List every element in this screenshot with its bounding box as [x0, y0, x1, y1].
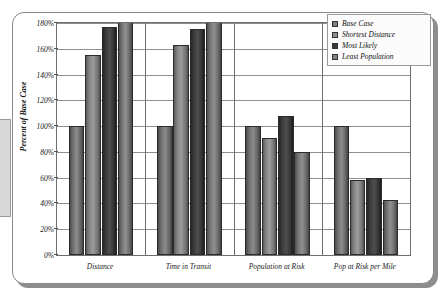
group-separator	[234, 23, 235, 255]
legend-swatch-icon	[332, 21, 338, 27]
y-axis-tick-label: 80%	[14, 147, 54, 156]
legend-item[interactable]: Most Likely	[332, 40, 426, 51]
x-axis-category-label: Distance	[56, 262, 144, 271]
y-axis-tick-label: 160%	[14, 44, 54, 53]
legend-item[interactable]: Shortest Distance	[332, 29, 426, 40]
y-axis-tick-label: 0%	[14, 251, 54, 260]
bar	[118, 23, 134, 255]
y-axis-tick-mark	[54, 125, 58, 126]
bar	[190, 29, 206, 255]
legend-item[interactable]: Base Case	[332, 18, 426, 29]
legend-swatch-icon	[332, 32, 338, 38]
bar	[102, 27, 118, 255]
bar	[157, 126, 173, 255]
y-axis-tick-label: 40%	[14, 199, 54, 208]
bar	[294, 152, 310, 255]
legend-label: Most Likely	[342, 41, 377, 50]
chart-legend: Base CaseShortest DistanceMost LikelyLea…	[327, 14, 431, 66]
bar	[85, 55, 101, 255]
x-axis-category-label: Population at Risk	[233, 262, 321, 271]
bar	[206, 23, 222, 255]
chart-window: Percent of Base Case 180%160%140%120%100…	[0, 0, 441, 291]
legend-swatch-icon	[332, 54, 338, 60]
group-separator	[322, 23, 323, 255]
y-axis-tick-label: 180%	[14, 19, 54, 28]
y-axis-tick-mark	[54, 202, 58, 203]
y-axis-tick-mark	[54, 22, 58, 23]
legend-label: Base Case	[342, 19, 373, 28]
y-axis-tick-labels: 180%160%140%120%100%80%60%40%20%0%	[8, 22, 54, 256]
bar	[173, 45, 189, 255]
y-axis-tick-mark	[54, 228, 58, 229]
x-axis-category-label: Time in Transit	[144, 262, 232, 271]
bar	[262, 138, 278, 255]
legend-label: Shortest Distance	[342, 30, 395, 39]
y-axis-tick-label: 140%	[14, 70, 54, 79]
bar	[350, 180, 366, 255]
bar	[278, 116, 294, 255]
y-axis-tick-mark	[54, 74, 58, 75]
y-axis-tick-mark	[54, 151, 58, 152]
bar	[383, 200, 399, 255]
y-axis-tick-mark	[54, 99, 58, 100]
y-axis-tick-mark	[54, 177, 58, 178]
y-axis-tick-label: 120%	[14, 96, 54, 105]
y-axis-tick-mark	[54, 254, 58, 255]
y-axis-tick-label: 100%	[14, 122, 54, 131]
y-axis-tick-mark	[54, 48, 58, 49]
bar	[334, 126, 350, 255]
x-axis-category-label: Pop at Risk per Mile	[321, 262, 409, 271]
y-axis-tick-label: 60%	[14, 173, 54, 182]
legend-swatch-icon	[332, 43, 338, 49]
bar	[69, 126, 85, 255]
legend-item[interactable]: Least Population	[332, 51, 426, 62]
y-axis-tick-label: 20%	[14, 225, 54, 234]
group-separator	[145, 23, 146, 255]
bar	[366, 178, 382, 255]
bar	[245, 126, 261, 255]
legend-label: Least Population	[342, 52, 393, 61]
